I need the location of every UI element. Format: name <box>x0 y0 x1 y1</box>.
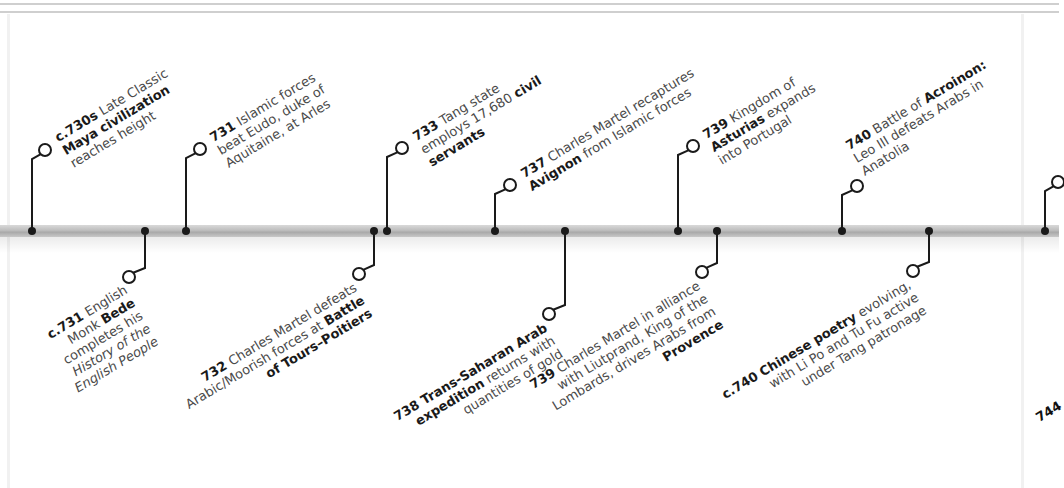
timeline-dot-icon <box>838 227 846 235</box>
connector-stem <box>553 231 565 310</box>
event-ring-icon <box>687 140 699 152</box>
connector-stem <box>133 231 145 273</box>
event-ring-icon <box>123 271 135 283</box>
timeline-dot-icon <box>141 227 149 235</box>
event-connector-738 <box>543 227 569 320</box>
event-ring-icon <box>543 308 555 320</box>
event-connector-733 <box>383 142 408 235</box>
timeline-dot-icon <box>28 227 36 235</box>
connector-stem <box>363 231 374 270</box>
connector-stem <box>917 231 929 267</box>
connector-stem <box>186 153 196 231</box>
timeline-dot-icon <box>1041 227 1049 235</box>
event-ring-icon <box>39 144 51 156</box>
event-connector-739b <box>696 227 721 278</box>
timeline-dot-icon <box>925 227 933 235</box>
event-connector-c740 <box>907 227 933 277</box>
event-connector-731 <box>182 143 206 235</box>
connector-stem <box>32 154 41 231</box>
event-ring-icon <box>907 265 919 277</box>
event-ring-icon <box>353 268 365 280</box>
event-connector-732 <box>353 227 378 280</box>
event-connector-737 <box>491 179 516 235</box>
timeline-dot-icon <box>491 227 499 235</box>
event-ring-icon <box>1052 176 1064 188</box>
event-ring-icon <box>194 143 206 155</box>
connector-stem <box>387 152 398 231</box>
event-connector-c730s <box>28 144 51 235</box>
event-connector-739a <box>674 140 699 235</box>
timeline-dot-icon <box>713 227 721 235</box>
connector-stem <box>678 150 689 231</box>
timeline-dot-icon <box>182 227 190 235</box>
connector-stem <box>495 189 506 231</box>
timeline-dot-icon <box>370 227 378 235</box>
timeline-dot-icon <box>674 227 682 235</box>
event-ring-icon <box>396 142 408 154</box>
timeline-dot-icon <box>383 227 391 235</box>
timeline-dot-icon <box>561 227 569 235</box>
connector-stem <box>1045 186 1054 231</box>
connector-stem <box>842 190 853 231</box>
event-ring-icon <box>851 180 863 192</box>
connector-stem <box>706 231 717 268</box>
event-connector-partial-right <box>1041 176 1064 235</box>
event-connector-c731 <box>123 227 149 283</box>
event-connector-740 <box>838 180 863 235</box>
event-ring-icon <box>504 179 516 191</box>
event-ring-icon <box>696 266 708 278</box>
